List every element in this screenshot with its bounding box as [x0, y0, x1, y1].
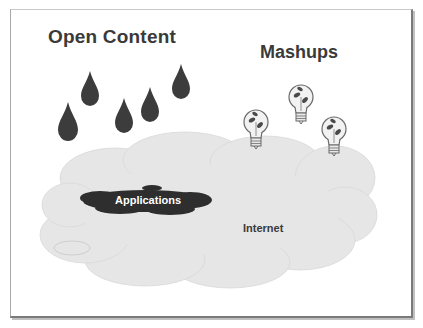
raindrop-icon — [141, 87, 159, 122]
diagram-art — [0, 0, 423, 328]
applications-label: Applications — [115, 194, 181, 206]
internet-label: Internet — [243, 222, 283, 234]
cloud-icon — [40, 132, 377, 288]
open-content-title: Open Content — [48, 26, 176, 48]
mashups-title: Mashups — [260, 42, 338, 63]
lightbulb-icon — [289, 85, 313, 124]
raindrop-icon — [115, 98, 133, 133]
raindrops — [58, 64, 190, 141]
raindrop-icon — [81, 71, 99, 106]
raindrop-icon — [58, 102, 78, 141]
raindrop-icon — [172, 64, 190, 99]
